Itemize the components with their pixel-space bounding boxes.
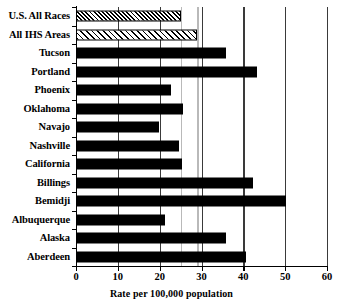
y-tick	[72, 155, 76, 156]
x-axis-title: Rate per 100,000 population	[0, 288, 343, 299]
bar	[76, 214, 165, 225]
x-tick-label: 10	[113, 272, 124, 283]
plot-area	[76, 7, 327, 266]
bar	[76, 103, 183, 114]
gridline-10	[118, 7, 119, 266]
x-tick-label: 30	[196, 272, 207, 283]
category-label: U.S. All Races	[8, 11, 70, 22]
y-tick	[72, 7, 76, 8]
y-tick	[72, 63, 76, 64]
y-tick	[72, 44, 76, 45]
reference-line-0	[181, 7, 182, 266]
gridline-60	[327, 7, 328, 266]
gridline-30	[202, 7, 203, 266]
category-label: Nashville	[29, 141, 70, 152]
x-tick-label: 60	[322, 272, 333, 283]
bar	[76, 196, 286, 207]
bar	[76, 29, 197, 40]
bar	[76, 66, 257, 77]
bar	[76, 251, 246, 262]
y-tick	[72, 174, 76, 175]
bar	[76, 159, 182, 170]
category-label: Portland	[31, 67, 70, 78]
gridline-40	[243, 7, 244, 266]
category-label: Oklahoma	[24, 104, 70, 115]
gridline-50	[285, 7, 286, 266]
bar	[76, 140, 179, 151]
category-label: All IHS Areas	[9, 30, 70, 41]
x-tick-label: 20	[154, 272, 165, 283]
x-tick-label: 0	[73, 272, 78, 283]
y-tick	[72, 118, 76, 119]
y-tick	[72, 192, 76, 193]
bar	[76, 48, 226, 59]
bar	[76, 233, 226, 244]
category-label: Navajo	[39, 122, 70, 133]
category-label: Billings	[37, 178, 70, 189]
reference-line-1	[197, 7, 198, 266]
x-tick-label: 50	[280, 272, 291, 283]
category-label: Phoenix	[35, 85, 70, 96]
category-label: Bemidji	[35, 196, 70, 207]
bar	[76, 85, 171, 96]
y-tick	[72, 26, 76, 27]
y-tick	[72, 211, 76, 212]
gridline-20	[160, 7, 161, 266]
y-tick	[72, 81, 76, 82]
category-label: Albuquerque	[12, 215, 70, 226]
bar-chart: U.S. All RacesAll IHS AreasTucsonPortlan…	[0, 0, 343, 305]
y-tick	[72, 100, 76, 101]
category-label: California	[25, 159, 70, 170]
bar	[76, 177, 253, 188]
category-label: Tucson	[39, 48, 70, 59]
category-label: Aberdeen	[27, 252, 70, 263]
y-tick	[72, 229, 76, 230]
y-tick	[72, 248, 76, 249]
bar	[76, 122, 159, 133]
category-axis-labels: U.S. All RacesAll IHS AreasTucsonPortlan…	[0, 7, 73, 266]
y-tick	[72, 137, 76, 138]
bar	[76, 11, 181, 22]
x-tick-label: 40	[238, 272, 249, 283]
category-label: Alaska	[40, 233, 70, 244]
